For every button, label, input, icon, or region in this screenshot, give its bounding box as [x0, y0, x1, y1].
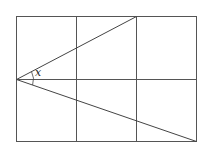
grid-diagram: x: [0, 0, 206, 154]
angle-label: x: [35, 66, 42, 79]
angle-arc: [32, 72, 34, 85]
lower-ray: [17, 80, 197, 142]
